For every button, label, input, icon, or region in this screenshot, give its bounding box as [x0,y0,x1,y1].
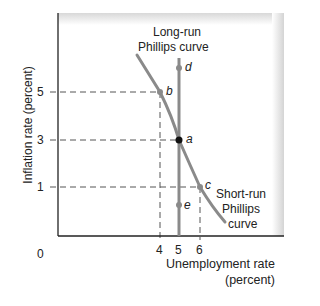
point-c-label: c [205,178,211,192]
srpc-label-line2: Phillips [222,202,260,216]
x-axis-label-line1: Unemployment rate [166,257,275,271]
x-tick-4: 4 [156,243,163,257]
y-tick-3: 3 [37,133,44,147]
y-tick-5: 5 [37,85,44,99]
srpc-label-line3: curve [228,217,257,231]
lrpc-label-line2: Phillips curve [138,40,209,54]
point-a-label: a [186,132,193,146]
point-a [176,137,183,144]
origin-label: 0 [37,247,44,261]
point-d-label: d [185,60,192,74]
lrpc-label-line1: Long-run [153,25,201,39]
point-e-label: e [184,198,191,212]
point-b-label: b [166,84,173,98]
x-axis-label-line2: (percent) [225,273,275,287]
srpc-label-line1: Short-run [216,187,266,201]
y-axis-label: Inflation rate (percent) [21,55,35,195]
x-tick-6: 6 [196,243,203,257]
plot-top-shade [58,13,284,25]
point-c [197,184,203,190]
plot-right-shade [272,13,284,236]
y-tick-1: 1 [37,180,44,194]
x-tick-5: 5 [175,243,182,257]
point-d [176,65,182,71]
point-e [176,202,182,208]
point-b [157,89,163,95]
